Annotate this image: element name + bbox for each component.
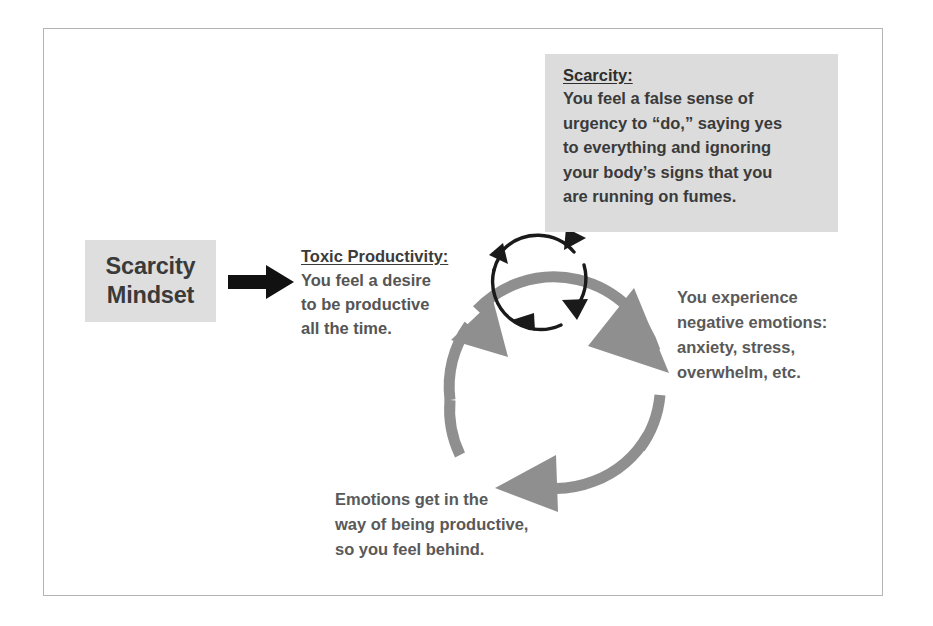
scarcity-mindset-label: Scarcity Mindset: [85, 240, 216, 322]
toxic-productivity-heading: Toxic Productivity:: [301, 244, 491, 268]
toxic-productivity-line-2: to be productive: [301, 292, 491, 316]
node-feel-behind: Emotions get in the way of being product…: [335, 487, 595, 562]
scarcity-callout-box: Scarcity: You feel a false sense of urge…: [545, 54, 838, 232]
scarcity-callout-line-2: urgency to “do,” saying yes: [563, 111, 820, 136]
toxic-productivity-line-1: You feel a desire: [301, 268, 491, 292]
node-negative-emotions: You experience negative emotions: anxiet…: [677, 285, 892, 385]
negative-emotions-line-1: You experience: [677, 285, 892, 310]
scarcity-callout-line-1: You feel a false sense of: [563, 86, 820, 111]
negative-emotions-line-2: negative emotions:: [677, 310, 892, 335]
node-toxic-productivity: Toxic Productivity: You feel a desire to…: [301, 244, 491, 340]
scarcity-callout-line-4: your body’s signs that you: [563, 160, 820, 185]
scarcity-callout-line-3: to everything and ignoring: [563, 135, 820, 160]
scarcity-callout-line-5: are running on fumes.: [563, 184, 820, 209]
scarcity-callout-heading: Scarcity:: [563, 66, 820, 85]
scarcity-mindset-line-2: Mindset: [107, 282, 194, 308]
toxic-productivity-line-3: all the time.: [301, 316, 491, 340]
feel-behind-line-2: way of being productive,: [335, 512, 595, 537]
feel-behind-line-1: Emotions get in the: [335, 487, 595, 512]
scarcity-mindset-line-1: Scarcity: [106, 253, 196, 279]
feel-behind-line-3: so you feel behind.: [335, 537, 595, 562]
right-arrow-icon: [228, 262, 294, 302]
scarcity-mindset-text: Scarcity Mindset: [106, 252, 196, 309]
negative-emotions-line-3: anxiety, stress,: [677, 335, 892, 360]
negative-emotions-line-4: overwhelm, etc.: [677, 360, 892, 385]
